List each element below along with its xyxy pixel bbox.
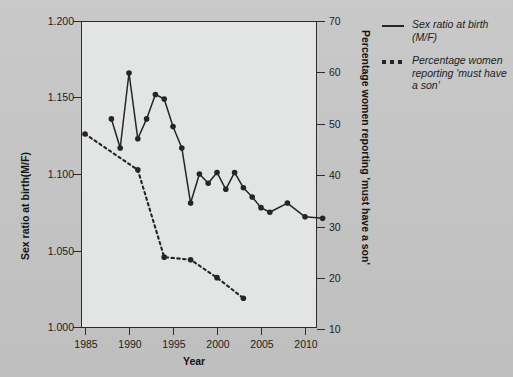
legend-entry-dashed: Percentage women reporting 'must have a … [382,54,510,92]
legend-label: Sex ratio at birth (M/F) [412,18,510,43]
legend: Sex ratio at birth (M/F) Percentage wome… [382,18,510,103]
legend-dashed-line-icon [382,60,404,64]
legend-solid-line-icon [382,25,404,27]
legend-entry-solid: Sex ratio at birth (M/F) [382,18,510,43]
legend-label: Percentage women reporting 'must have a … [412,54,510,92]
series-must-have-son [82,131,246,301]
series-sex-ratio [109,70,326,221]
chart-figure: 1.200 1.150 1.100 1.050 1.000 70 60 50 4… [0,0,513,377]
